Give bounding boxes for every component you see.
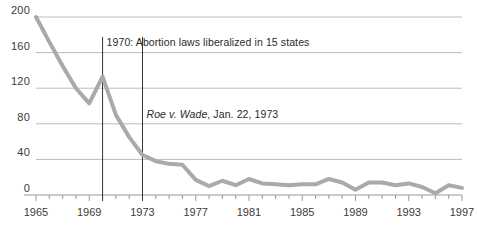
annotation-lines	[103, 37, 143, 201]
x-axis-ticks	[36, 195, 462, 201]
x-axis-tick-label: 1981	[224, 206, 274, 218]
y-axis-tick-label: 80	[17, 111, 30, 123]
x-axis-tick-label: 1989	[331, 206, 381, 218]
y-axis-tick-label: 40	[17, 146, 30, 158]
x-axis-tick-label: 1993	[384, 206, 434, 218]
x-axis-tick-label: 1965	[11, 206, 61, 218]
y-axis-tick-label: 200	[11, 4, 30, 16]
x-axis-tick-label: 1977	[171, 206, 221, 218]
x-axis-tick-label: 1969	[64, 206, 114, 218]
annotation-label-roe-v-wade: Roe v. Wade, Jan. 22, 1973	[147, 108, 279, 120]
annotation-italic-title: Roe v. Wade	[147, 108, 208, 120]
y-axis-tick-label: 120	[11, 75, 30, 87]
annotation-label-1970: 1970: Abortion laws liberalized in 15 st…	[107, 36, 310, 48]
x-axis-tick-label: 1997	[437, 206, 479, 218]
x-axis-tick-label: 1973	[118, 206, 168, 218]
y-axis-tick-label: 0	[24, 182, 30, 194]
x-axis-tick-label: 1985	[277, 206, 327, 218]
y-axis-tick-label: 160	[11, 40, 30, 52]
